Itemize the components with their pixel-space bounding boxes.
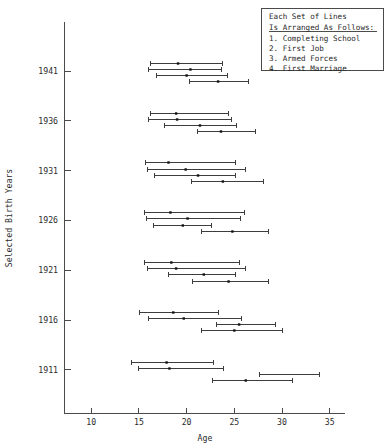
median-marker: [186, 217, 188, 219]
x-axis-title: Age: [198, 433, 213, 443]
span-1941-first-marriage: [189, 79, 248, 84]
median-marker: [231, 230, 233, 232]
y-axis-title: Selected Birth Years: [4, 169, 14, 268]
median-marker: [172, 311, 174, 313]
x-tick-label-30: 30: [277, 417, 287, 427]
span-1936-armed-forces: [164, 123, 237, 128]
span-1921-completing-school: [144, 260, 240, 265]
span-1936-completing-school: [150, 111, 228, 116]
y-tick-label-1941: 1941: [38, 66, 58, 76]
span-1931-first-marriage: [191, 179, 263, 184]
span-1941-first-job: [148, 67, 221, 72]
cohort-group-1916: [139, 310, 283, 333]
x-tick-label-35: 35: [325, 417, 335, 427]
cohort-group-1941: [148, 61, 248, 84]
median-marker: [165, 361, 167, 363]
span-1916-armed-forces: [216, 322, 275, 327]
x-tick-label-25: 25: [229, 417, 239, 427]
span-1911-completing-school: [131, 360, 213, 365]
median-marker: [203, 273, 205, 275]
median-marker: [169, 211, 171, 213]
y-tick-label-1916: 1916: [38, 315, 58, 325]
median-marker: [170, 261, 172, 263]
legend-header-line-2: Is Arranged As Follows:: [269, 23, 374, 32]
span-1931-armed-forces: [154, 173, 235, 178]
median-marker: [175, 112, 177, 114]
median-marker: [182, 224, 184, 226]
median-marker: [245, 379, 247, 381]
cohort-group-1936: [148, 111, 256, 134]
span-1911-first-job: [138, 366, 224, 371]
span-1936-first-marriage: [197, 129, 255, 134]
legend-header-line-1: Each Set of Lines: [269, 12, 347, 21]
y-tick-label-1931: 1931: [38, 166, 58, 176]
span-1926-completing-school: [144, 210, 245, 215]
median-marker: [167, 161, 169, 163]
chart-container: 101520253035 194119361931192619211916191…: [0, 0, 391, 446]
x-tick-label-20: 20: [182, 417, 192, 427]
median-marker: [176, 118, 178, 120]
x-tick-label-10: 10: [86, 417, 96, 427]
span-1926-first-job: [146, 216, 241, 221]
span-1916-completing-school: [139, 310, 219, 315]
median-marker: [185, 74, 187, 76]
legend-item-first-marriage: 4. First Marriage: [269, 64, 347, 73]
median-marker: [197, 174, 199, 176]
span-1916-first-job: [148, 316, 242, 321]
span-1941-armed-forces: [156, 73, 227, 78]
median-marker: [199, 124, 201, 126]
span-1936-first-job: [148, 117, 232, 122]
span-1931-first-job: [147, 167, 246, 172]
median-marker: [238, 323, 240, 325]
cohort-group-1926: [144, 210, 269, 234]
legend-box: Each Set of Lines Is Arranged As Follows…: [262, 9, 384, 74]
y-tick-label-1921: 1921: [38, 265, 58, 275]
y-tick-label-1911: 1911: [38, 365, 58, 375]
span-1911-first-marriage: [212, 378, 292, 383]
y-tick-label-1936: 1936: [38, 116, 58, 126]
span-1941-completing-school: [150, 61, 222, 66]
cohort-group-1921: [144, 260, 269, 284]
median-marker: [184, 168, 186, 170]
legend-item-armed-forces: 3. Armed Forces: [269, 54, 338, 63]
span-1921-armed-forces: [168, 272, 235, 277]
median-marker: [222, 180, 224, 182]
cohort-group-1911: [131, 360, 319, 383]
median-marker: [175, 267, 177, 269]
y-tick-label-1926: 1926: [38, 215, 58, 225]
span-1911-armed-forces: [259, 372, 319, 377]
median-marker: [189, 68, 191, 70]
median-marker: [227, 280, 229, 282]
span-1921-first-marriage: [192, 279, 268, 284]
x-tick-label-15: 15: [134, 417, 144, 427]
span-1926-armed-forces: [153, 223, 211, 228]
median-marker: [220, 130, 222, 132]
span-1931-completing-school: [145, 160, 236, 165]
span-1926-first-marriage: [201, 229, 269, 234]
chart-svg: 101520253035 194119361931192619211916191…: [0, 0, 391, 446]
median-marker: [183, 317, 185, 319]
legend-item-completing-school: 1. Completing School: [269, 34, 360, 43]
legend-item-first-job: 2. First Job: [269, 44, 324, 53]
cohort-group-1931: [145, 160, 264, 184]
median-marker: [168, 367, 170, 369]
x-ticks-group: 101520253035: [86, 408, 334, 427]
data-series-group: [131, 61, 319, 383]
y-ticks-group: 1941193619311926192119161911: [38, 66, 70, 375]
median-marker: [177, 62, 179, 64]
median-marker: [217, 80, 219, 82]
span-1916-first-marriage: [201, 328, 283, 333]
median-marker: [233, 329, 235, 331]
span-1921-first-job: [147, 266, 246, 271]
